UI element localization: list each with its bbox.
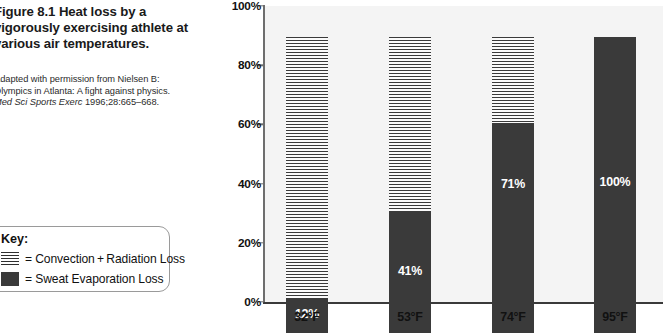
figure-source-credit: Adapted with permission from Nielsen B: … (0, 74, 194, 109)
bar-segment-sweat-evaporation: 100% (594, 37, 636, 333)
legend-item-convection-radiation: = Convection + Radiation Loss (1, 250, 185, 267)
x-tick-label-74f: 74°F (468, 310, 558, 324)
bar-group-74f[interactable]: 71% (492, 31, 534, 333)
bar-value-label: 100% (594, 175, 636, 189)
bar-segment-convection-radiation (492, 37, 534, 123)
source-journal-name: Med Sci Sports Exerc (0, 97, 82, 107)
bar-group-32f[interactable]: 12% (286, 31, 328, 333)
figure-caption: Figure 8.1 Heat loss by a vigorously exe… (0, 4, 190, 53)
y-tick-label-60: 60% (201, 117, 261, 131)
x-tick-label-32f: 32°F (262, 310, 352, 324)
bar-group-53f[interactable]: 41% (389, 31, 431, 333)
bar-group-95f[interactable]: 100% (594, 31, 636, 333)
solid-swatch-icon (1, 272, 19, 286)
stacked-bar-chart: Percentage of Heat Lost by Each Mechanis… (196, 0, 663, 333)
chart-legend: Key: = Convection + Radiation Loss = Swe… (0, 226, 170, 292)
x-tick-label-95f: 95°F (570, 310, 660, 324)
y-axis-line (263, 5, 265, 303)
striped-swatch-icon (1, 252, 19, 266)
y-tick-label-0: 0% (201, 295, 261, 309)
source-line-2: Olympics in Atlanta: A fight against phy… (0, 86, 170, 96)
y-tick-label-100: 100% (201, 0, 261, 13)
bar-value-label: 71% (492, 177, 534, 191)
bar-segment-convection-radiation (389, 37, 431, 212)
figure-number: Figure 8.1 (0, 4, 55, 19)
bar-segment-convection-radiation (286, 37, 328, 298)
legend-item-label: = Convection + Radiation Loss (25, 252, 185, 266)
source-line-1: Adapted with permission from Nielsen B: (0, 74, 159, 84)
source-citation: 1996;28:665–668. (85, 97, 159, 107)
y-tick-label-40: 40% (201, 177, 261, 191)
y-tick-label-20: 20% (201, 236, 261, 250)
bar-segment-sweat-evaporation: 71% (492, 123, 534, 333)
legend-item-label: = Sweat Evaporation Loss (25, 272, 163, 286)
legend-item-sweat-evaporation: = Sweat Evaporation Loss (1, 270, 163, 287)
figure-text-column: Figure 8.1 Heat loss by a vigorously exe… (0, 0, 196, 333)
bar-value-label: 41% (389, 264, 431, 278)
y-tick-label-80: 80% (201, 58, 261, 72)
legend-title: Key: (1, 232, 28, 246)
x-tick-label-53f: 53°F (365, 310, 455, 324)
